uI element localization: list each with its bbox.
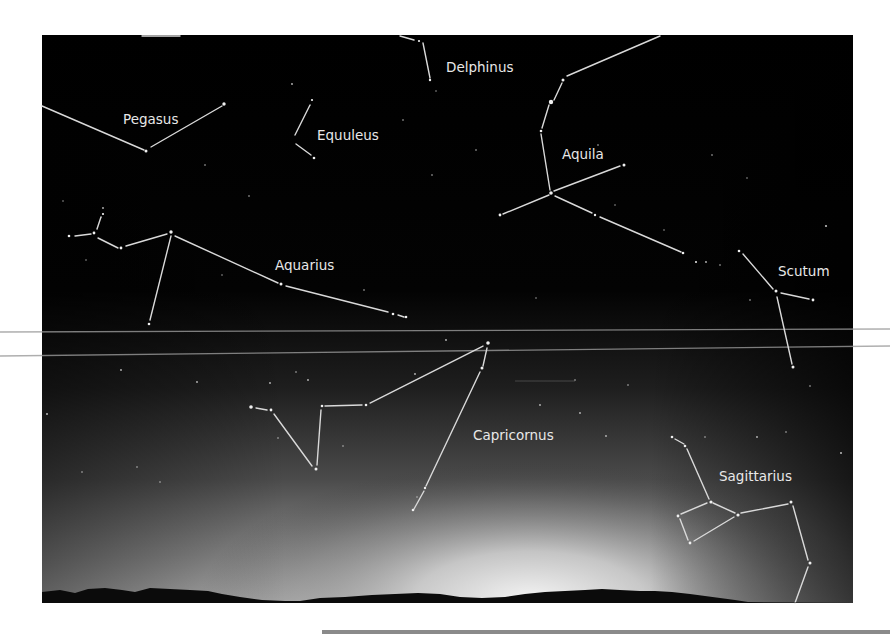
label-aquila: Aquila <box>562 146 604 162</box>
label-aquarius: Aquarius <box>275 257 334 273</box>
scan-edge-bar <box>322 630 890 634</box>
label-equuleus: Equuleus <box>317 127 379 143</box>
label-scutum: Scutum <box>778 263 830 279</box>
night-sky-photo: Pegasus Equuleus Delphinus Aquila Aquari… <box>0 0 890 634</box>
label-delphinus: Delphinus <box>446 59 513 75</box>
label-pegasus: Pegasus <box>123 111 178 127</box>
label-capricornus: Capricornus <box>473 427 554 443</box>
label-sagittarius: Sagittarius <box>719 468 792 484</box>
